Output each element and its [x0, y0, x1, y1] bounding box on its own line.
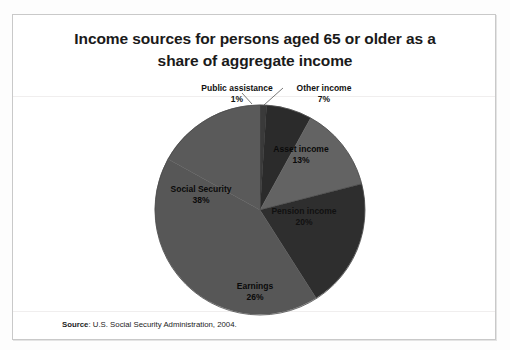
slice-label-pension-income-value: 20% — [258, 217, 350, 228]
slice-label-earnings-name: Earnings — [219, 281, 291, 292]
source-note-text: : U.S. Social Security Administration, 2… — [88, 320, 236, 329]
callout-public-assistance-label: Public assistance — [193, 83, 281, 94]
slice-label-earnings: Earnings 26% — [219, 281, 291, 303]
chart-page: Income sources for persons aged 65 or ol… — [0, 0, 510, 350]
slice-label-pension-income-name: Pension income — [258, 206, 350, 217]
callout-public-assistance: Public assistance 1% — [193, 83, 281, 105]
slice-label-pension-income: Pension income 20% — [258, 206, 350, 228]
callout-public-assistance-value: 1% — [193, 94, 281, 105]
slice-label-social-security-name: Social Security — [158, 184, 244, 195]
slice-label-earnings-value: 26% — [219, 292, 291, 303]
slice-label-social-security-value: 38% — [158, 195, 244, 206]
slice-label-asset-income-value: 13% — [262, 155, 340, 166]
callout-other-income-value: 7% — [288, 94, 360, 105]
slice-label-asset-income-name: Asset income — [262, 144, 340, 155]
source-note-prefix: Source — [62, 320, 88, 329]
callout-other-income-label: Other income — [288, 83, 360, 94]
source-note: Source: U.S. Social Security Administrat… — [62, 320, 237, 329]
callout-other-income: Other income 7% — [288, 83, 360, 105]
slice-label-asset-income: Asset income 13% — [262, 144, 340, 166]
slice-label-social-security: Social Security 38% — [158, 184, 244, 206]
